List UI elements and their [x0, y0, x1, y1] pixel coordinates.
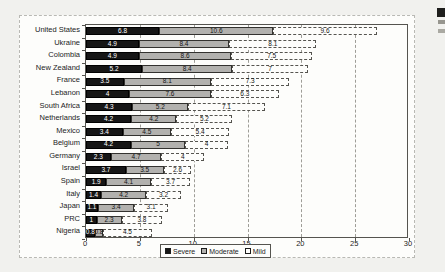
- bar-value-label: 5.4: [196, 129, 205, 136]
- bar-segment-mild: 3.7: [151, 178, 191, 186]
- y-axis-tick: [82, 88, 85, 89]
- x-axis-tick-label: 25: [344, 239, 364, 248]
- bar-segment-severe: 2.3: [86, 153, 111, 161]
- category-label: New Zealand: [22, 62, 83, 75]
- bar-segment-mild: 4: [185, 141, 228, 149]
- bar-segment-moderate: 4.2: [101, 191, 146, 199]
- y-axis-tick: [82, 201, 85, 202]
- category-label: Lebanon: [22, 87, 83, 100]
- bar-segment-mild: 3.1: [134, 204, 167, 212]
- bar-segment-mild: 3.2: [146, 191, 180, 199]
- bar-segment-severe: 3.5: [86, 78, 124, 86]
- bar-value-label: 3.1: [147, 204, 156, 211]
- bar-segment-severe: 4.2: [86, 141, 131, 149]
- bar-value-label: 5.2: [156, 104, 165, 111]
- category-label: Italy: [22, 188, 83, 201]
- bar-value-label: 5: [156, 141, 160, 148]
- cropped-content-fragment: [438, 20, 445, 24]
- bar-segment-mild: 8.1: [229, 40, 316, 48]
- bar-value-label: 3.5: [140, 167, 149, 174]
- x-axis-tick-label: 5: [129, 239, 149, 248]
- chart-figure: United StatesUkraineColombiaNew ZealandF…: [19, 15, 415, 258]
- y-axis-tick: [82, 113, 85, 114]
- legend-item: Severe: [165, 248, 195, 255]
- bar-value-label: 6.3: [240, 91, 249, 98]
- legend-item: Moderate: [201, 248, 239, 255]
- bar-value-label: 1.4: [89, 192, 98, 199]
- bar-segment-moderate: 5: [131, 141, 185, 149]
- bar-segment-mild: 5.4: [171, 128, 229, 136]
- bar-segment-moderate: 3.4: [98, 204, 135, 212]
- bar-segment-moderate: 8.1: [124, 78, 211, 86]
- bar-row: 1.94.13.7: [86, 178, 190, 186]
- bar-row: 2.34.74: [86, 153, 204, 161]
- bar-row: 4.98.67.5: [86, 52, 312, 60]
- bar-value-label: 6.8: [118, 28, 127, 35]
- bar-value-label: 9.6: [320, 28, 329, 35]
- bar-value-label: 7.5: [267, 53, 276, 60]
- bar-value-label: 3.2: [159, 192, 168, 199]
- gridline: [355, 25, 356, 237]
- bar-row: 3.58.17.3: [86, 78, 289, 86]
- bar-value-label: 4: [106, 91, 110, 98]
- y-axis-tick: [82, 101, 85, 102]
- bar-segment-severe: 4.2: [86, 115, 131, 123]
- bar-value-label: 4.2: [119, 192, 128, 199]
- bar-row: 4.254: [86, 141, 228, 149]
- y-axis-tick: [82, 226, 85, 227]
- bar-segment-mild: 7.1: [188, 103, 264, 111]
- bar-value-label: 7.6: [165, 91, 174, 98]
- bar-row: 6.810.69.6: [86, 27, 377, 35]
- bar-segment-mild: 7: [232, 65, 307, 73]
- x-axis-tick-label: 30: [398, 239, 418, 248]
- bar-value-label: 4: [205, 141, 209, 148]
- bar-segment-moderate: 4.1: [106, 178, 150, 186]
- bar-segment-mild: 4.5: [103, 229, 151, 237]
- bar-row: 3.44.55.4: [86, 128, 229, 136]
- x-axis-tick-label: 20: [290, 239, 310, 248]
- bar-row: 1.13.43.1: [86, 204, 168, 212]
- bar-value-label: 2.6: [173, 167, 182, 174]
- y-axis-tick: [82, 189, 85, 190]
- bar-segment-moderate: 5.2: [132, 103, 188, 111]
- y-axis-tick: [82, 75, 85, 76]
- bar-segment-severe: 1: [86, 216, 97, 224]
- y-axis-tick: [82, 214, 85, 215]
- y-axis-tick: [82, 126, 85, 127]
- bar-segment-moderate: 4.7: [111, 153, 162, 161]
- plot-area: 6.810.69.64.98.48.14.98.67.55.28.473.58.…: [85, 24, 408, 238]
- bar-value-label: 8.1: [268, 41, 277, 48]
- y-axis-tick: [82, 50, 85, 51]
- bar-value-label: 4.2: [104, 141, 113, 148]
- bar-segment-severe: 1.9: [86, 178, 106, 186]
- bar-value-label: 3.7: [101, 167, 110, 174]
- bar-value-label: 4.2: [104, 116, 113, 123]
- y-axis-tick: [82, 176, 85, 177]
- bar-segment-moderate: 8.4: [139, 40, 229, 48]
- bar-value-label: 7.3: [246, 78, 255, 85]
- bar-value-label: 3.8: [137, 217, 146, 224]
- bar-value-label: 1.1: [87, 204, 96, 211]
- bar-segment-moderate: 8.4: [142, 65, 232, 73]
- category-label: France: [22, 74, 83, 87]
- bar-value-label: 2.3: [94, 154, 103, 161]
- bar-segment-severe: 0.8: [86, 229, 95, 237]
- category-label: Japan: [22, 200, 83, 213]
- bar-row: 12.33.8: [86, 216, 162, 224]
- bar-row: 47.66.3: [86, 90, 279, 98]
- cropped-content-fragment: [438, 29, 445, 33]
- category-label: Netherlands: [22, 112, 83, 125]
- bar-value-label: 8.6: [181, 53, 190, 60]
- y-axis-tick: [82, 151, 85, 152]
- bar-value-label: 3.4: [112, 204, 121, 211]
- bar-segment-moderate: 7.6: [129, 90, 211, 98]
- category-label: Ukraine: [22, 37, 83, 50]
- bar-segment-mild: 3.8: [122, 216, 163, 224]
- y-axis-tick: [82, 38, 85, 39]
- legend-item: Mild: [245, 248, 266, 255]
- bar-segment-mild: 7.3: [211, 78, 290, 86]
- category-label: Belgium: [22, 137, 83, 150]
- bar-segment-mild: 4: [161, 153, 204, 161]
- legend-swatch-severe: [165, 248, 171, 254]
- legend-swatch-moderate: [201, 248, 207, 254]
